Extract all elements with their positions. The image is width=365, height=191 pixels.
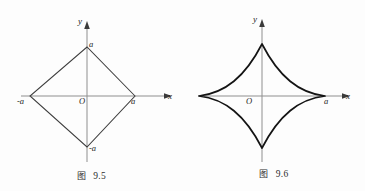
astroid-plot xyxy=(183,0,365,165)
origin-label: O xyxy=(246,97,252,106)
caption-number: 9.5 xyxy=(93,171,106,181)
origin-label: O xyxy=(79,97,85,106)
x-axis-label: x xyxy=(168,92,172,101)
x-axis xyxy=(21,93,172,99)
figure-pair-page: y x O a a -a -a 图9.5 xyxy=(0,0,365,191)
caption-word: 图 xyxy=(259,169,268,179)
figure-9-5: y x O a a -a -a 图9.5 xyxy=(0,0,183,191)
vertex-left-label: -a xyxy=(17,97,24,106)
x-axis-label: x xyxy=(346,92,350,101)
figure-caption: 图9.5 xyxy=(0,169,183,182)
caption-number: 9.6 xyxy=(276,169,289,179)
vertex-right-label: a xyxy=(131,97,135,106)
y-axis-label: y xyxy=(253,15,257,24)
rhombus-plot xyxy=(0,0,183,165)
figure-caption: 图9.6 xyxy=(183,167,365,180)
figure-9-6: y x O a 图9.6 xyxy=(183,0,365,191)
caption-word: 图 xyxy=(77,171,86,181)
vertex-right-label: a xyxy=(324,97,328,106)
vertex-bottom-label: -a xyxy=(89,144,96,153)
vertex-top-label: a xyxy=(89,40,93,49)
y-axis-label: y xyxy=(78,17,82,26)
y-axis xyxy=(259,19,265,162)
